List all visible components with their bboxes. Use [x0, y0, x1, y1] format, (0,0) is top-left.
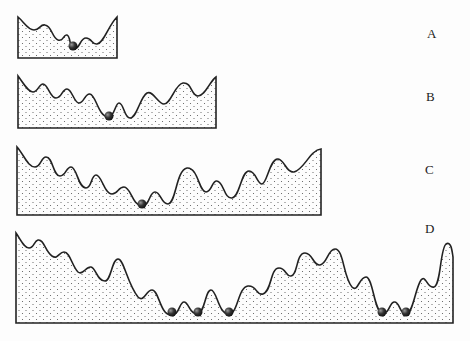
ball [378, 308, 387, 317]
ball [194, 308, 203, 317]
panel-d [16, 233, 453, 323]
ball [138, 200, 147, 209]
landscape-diagram [0, 0, 470, 341]
panel-c [17, 147, 321, 215]
ball [225, 308, 234, 317]
ball [402, 308, 411, 317]
panel-a [18, 17, 117, 58]
panel-label-c: C [425, 162, 434, 178]
panel-label-a: A [427, 26, 436, 42]
panel-label-b: B [426, 89, 435, 105]
ball [168, 308, 177, 317]
panel-label-d: D [425, 221, 434, 237]
landscape-c-fill [17, 147, 321, 215]
panel-b [18, 76, 216, 128]
ball [105, 112, 114, 121]
landscape-a-fill [18, 17, 117, 58]
ball [69, 42, 78, 51]
